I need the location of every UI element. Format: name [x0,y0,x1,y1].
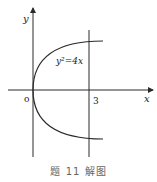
line-value-label: 3 [93,96,99,106]
y-axis-label: y [22,13,29,24]
x-axis-label: x [144,93,150,104]
figure-caption: 题 11 解图 [0,163,157,178]
parabola-diagram: y x o 3 y²=4x [0,0,157,182]
origin-label: o [24,94,29,104]
equation-label: y²=4x [55,56,83,66]
